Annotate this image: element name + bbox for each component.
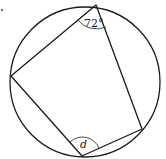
cyclic-quadrilateral-diagram: 72° d (0, 0, 166, 159)
marker-dot (1, 9, 3, 11)
angle-label-top: 72° (84, 17, 104, 30)
angle-label-bottom: d (80, 138, 87, 151)
